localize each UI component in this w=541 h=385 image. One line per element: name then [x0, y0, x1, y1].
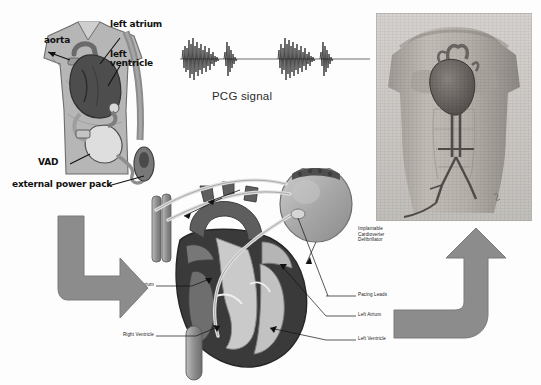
pcg-waveform-graphic — [180, 28, 370, 90]
label-right-ventricle: Right Ventricle — [96, 332, 154, 338]
label-left-atrium: left atrium — [110, 20, 162, 29]
heart-icd-diagram-panel: Implantable Cardioverter Defibrillator P… — [120, 168, 420, 383]
pcg-signal-caption: PCG signal — [212, 90, 272, 102]
heart-icd-graphic — [120, 168, 420, 383]
label-vad: VAD — [38, 158, 58, 167]
medical-figure-canvas: aorta left atrium left ventricle VAD ext… — [0, 0, 541, 385]
label-aorta: aorta — [44, 36, 70, 45]
vad-illustration-graphic — [8, 14, 186, 194]
flow-arrow-left-up — [392, 214, 510, 342]
flow-arrow-down-right — [28, 214, 150, 324]
label-external-power-pack: external power pack — [12, 180, 112, 189]
label-left-ventricle: left ventricle — [110, 50, 153, 69]
vad-illustration-panel: aorta left atrium left ventricle VAD ext… — [8, 14, 186, 194]
pcg-signal-panel: PCG signal — [180, 28, 370, 118]
